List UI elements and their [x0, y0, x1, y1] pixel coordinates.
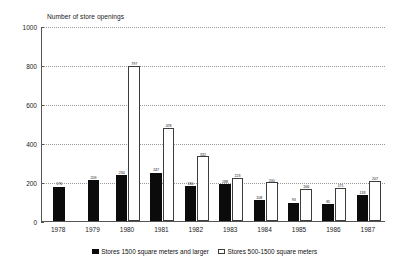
x-tick-label: 1983 — [223, 226, 237, 233]
bar: 133 — [357, 195, 369, 221]
x-tick-label: 1982 — [189, 226, 203, 233]
bar-group: 209 — [76, 27, 110, 221]
legend-swatch-icon — [92, 249, 99, 254]
y-tick-mark — [41, 144, 44, 145]
legend-label: Stores 500-1500 square meters — [227, 248, 317, 255]
legend-entry: Stores 500-1500 square meters — [218, 248, 317, 255]
y-tick-label: 800 — [3, 63, 37, 70]
y-tick-label: 0 — [3, 219, 37, 226]
y-tick-mark — [41, 183, 44, 184]
bar-value-label: 209 — [91, 176, 97, 180]
y-tick-label: 600 — [3, 102, 37, 109]
bar-group: 180332 — [180, 27, 214, 221]
bar-group: 108200 — [248, 27, 282, 221]
bar-value-label: 247 — [153, 168, 159, 172]
bar-value-label: 797 — [131, 62, 137, 66]
bar-value-label: 133 — [360, 191, 366, 195]
bar: 797 — [128, 66, 140, 221]
bar-group: 85171 — [317, 27, 351, 221]
legend-swatch-icon — [218, 249, 225, 254]
bar-value-label: 93 — [292, 198, 296, 202]
bar-value-label: 171 — [338, 184, 344, 188]
bar-group: 247478 — [145, 27, 179, 221]
bar: 108 — [254, 200, 266, 221]
legend-entry: Stores 1500 square meters and larger — [92, 248, 209, 255]
bar-value-label: 332 — [200, 153, 206, 157]
y-tick-mark — [41, 105, 44, 106]
bar-group: 93166 — [283, 27, 317, 221]
x-tick-label: 1981 — [154, 226, 168, 233]
bar: 188 — [219, 184, 231, 221]
y-axis: 10008006004002000 — [0, 27, 37, 222]
bar: 176 — [53, 187, 65, 221]
chart-legend: Stores 1500 square meters and largerStor… — [0, 248, 409, 255]
bar-group: 133207 — [352, 27, 386, 221]
x-tick-label: 1986 — [326, 226, 340, 233]
x-tick-label: 1980 — [120, 226, 134, 233]
bar: 200 — [266, 182, 278, 221]
bar: 209 — [88, 180, 100, 221]
bar-chart: Number of store openings 100080060040020… — [0, 0, 409, 273]
bar: 207 — [369, 181, 381, 221]
bar: 234 — [116, 175, 128, 221]
plot-area: 1762092347972474781803321882231082009316… — [41, 27, 385, 222]
legend-label: Stores 1500 square meters and larger — [101, 248, 209, 255]
bar-value-label: 478 — [166, 124, 172, 128]
bar-group: 188223 — [214, 27, 248, 221]
bar: 247 — [150, 173, 162, 221]
x-axis: 1978197919801981198219831984198519861987 — [41, 226, 385, 238]
bar-value-label: 223 — [234, 174, 240, 178]
y-tick-mark — [41, 27, 44, 28]
bar-value-label: 180 — [188, 182, 194, 186]
bar-value-label: 200 — [269, 179, 275, 183]
bar-value-label: 85 — [326, 200, 330, 204]
x-tick-label: 1978 — [51, 226, 65, 233]
y-tick-mark — [41, 66, 44, 67]
x-tick-label: 1985 — [292, 226, 306, 233]
x-tick-label: 1984 — [257, 226, 271, 233]
y-tick-mark — [41, 222, 44, 223]
bar: 166 — [300, 189, 312, 221]
bar: 171 — [335, 188, 347, 221]
y-tick-label: 1000 — [3, 24, 37, 31]
bar: 332 — [197, 156, 209, 221]
bar-value-label: 188 — [222, 180, 228, 184]
bar: 223 — [232, 178, 244, 221]
bar: 180 — [185, 186, 197, 221]
bar-value-label: 166 — [303, 185, 309, 189]
bar: 85 — [322, 204, 334, 221]
bar-value-label: 108 — [256, 196, 262, 200]
bar-value-label: 207 — [372, 177, 378, 181]
bar-value-label: 176 — [56, 182, 62, 186]
y-tick-label: 200 — [3, 180, 37, 187]
bar-group: 176 — [42, 27, 76, 221]
bar-value-label: 234 — [119, 171, 125, 175]
x-tick-label: 1979 — [85, 226, 99, 233]
bar: 93 — [288, 203, 300, 221]
chart-title: Number of store openings — [47, 13, 124, 20]
x-tick-label: 1987 — [361, 226, 375, 233]
y-tick-label: 400 — [3, 141, 37, 148]
bar: 478 — [163, 128, 175, 221]
bar-group: 234797 — [111, 27, 145, 221]
